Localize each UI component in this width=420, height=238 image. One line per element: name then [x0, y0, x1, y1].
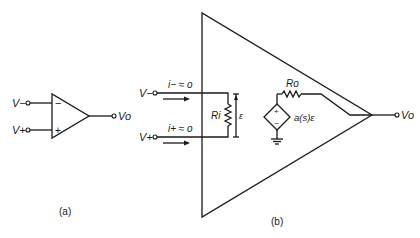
label-vo-b: Vo — [401, 109, 414, 121]
opamp-triangle-large — [202, 13, 372, 217]
label-v-minus-b: V− — [139, 87, 153, 99]
label-i-plus: i+ ≈ o — [168, 123, 193, 134]
label-a-s-epsilon: a(s)ε — [294, 112, 315, 123]
label-v-minus-a: V− — [12, 97, 26, 109]
plus-sign-a: + — [55, 125, 61, 136]
caption-b: (b) — [271, 216, 283, 227]
label-v-plus-b: V+ — [139, 131, 153, 143]
terminal-vo-a — [112, 114, 116, 118]
terminal-vo-b — [395, 113, 399, 117]
caption-a: (a) — [59, 206, 71, 217]
terminal-v-plus-b — [153, 135, 157, 139]
resistor-ro — [282, 91, 301, 97]
minus-sign-a: − — [55, 97, 61, 109]
label-v-plus-a: V+ — [12, 124, 26, 136]
figure-b: V− V+ i− ≈ o i+ ≈ o Ri ε Ro a(s)ε + − Vo… — [139, 13, 414, 227]
label-ro: Ro — [286, 78, 299, 89]
source-minus-sign: − — [275, 119, 280, 128]
label-ri: Ri — [211, 110, 221, 121]
terminal-v-minus-a — [26, 101, 30, 105]
terminal-v-plus-a — [26, 128, 30, 132]
label-vo-a: Vo — [118, 110, 131, 122]
source-plus-sign: + — [274, 107, 279, 116]
label-i-minus: i− ≈ o — [168, 79, 193, 90]
resistor-ri — [225, 104, 231, 126]
label-epsilon: ε — [239, 111, 244, 121]
figure-a: V− V+ Vo − + (a) — [12, 94, 131, 217]
opamp-diagram: V− V+ Vo − + (a) — [0, 0, 420, 238]
terminal-v-minus-b — [153, 91, 157, 95]
